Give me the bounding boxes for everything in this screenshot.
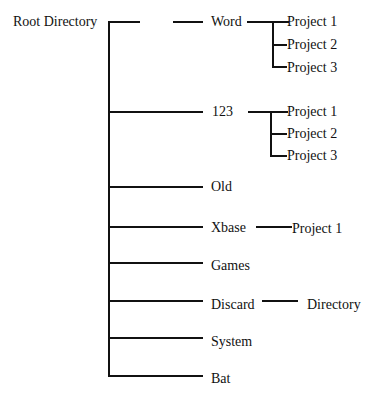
node-discard: Discard	[211, 297, 255, 313]
word-connector	[247, 21, 289, 23]
node-xbase: Xbase	[211, 220, 246, 236]
word-project-3: Project 3	[287, 60, 337, 76]
node-system: System	[211, 334, 252, 350]
node-old: Old	[211, 179, 232, 195]
word-project-2: Project 2	[287, 37, 337, 53]
branch-bat	[108, 375, 203, 377]
root-directory-label: Root Directory	[13, 14, 97, 30]
branch-old	[108, 186, 203, 188]
123-sub-branch	[270, 133, 287, 135]
word-sub-branch	[272, 66, 287, 68]
discard-connector	[262, 300, 298, 302]
123-project-2: Project 2	[287, 126, 337, 142]
123-connector	[248, 111, 288, 113]
branch-discard	[108, 300, 203, 302]
node-123: 123	[212, 104, 233, 120]
xbase-project-1: Project 1	[292, 221, 342, 237]
branch-word	[173, 21, 203, 23]
123-project-1: Project 1	[287, 104, 337, 120]
branch-xbase	[108, 226, 203, 228]
123-sub-branch	[270, 155, 287, 157]
root-connector	[108, 21, 140, 23]
word-sub-branch	[272, 44, 287, 46]
node-bat: Bat	[211, 371, 230, 387]
trunk-line	[108, 21, 110, 376]
node-games: Games	[211, 258, 250, 274]
branch-games	[108, 262, 203, 264]
node-word: Word	[211, 14, 242, 30]
discard-directory: Directory	[307, 297, 361, 313]
xbase-connector	[256, 226, 292, 228]
123-project-3: Project 3	[287, 148, 337, 164]
branch-system	[108, 337, 203, 339]
word-project-1: Project 1	[287, 14, 337, 30]
branch-123	[108, 111, 203, 113]
